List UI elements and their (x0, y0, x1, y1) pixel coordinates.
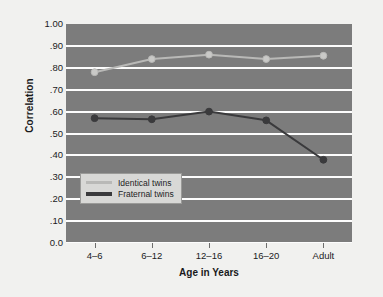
legend-label: Identical twins (118, 178, 171, 188)
x-axis-title: Age in Years (66, 267, 352, 278)
plot-area: Identical twins Fraternal twins (66, 24, 352, 243)
y-axis-tick-label: .40 (33, 150, 63, 160)
y-axis-tick-label: .70 (33, 85, 63, 95)
y-axis-tick-label: 0.0 (33, 238, 63, 248)
x-axis-tick-label: 4–6 (65, 250, 125, 261)
data-point-marker (206, 108, 213, 115)
y-axis-tick-label: .30 (33, 172, 63, 182)
series-line (95, 112, 324, 160)
data-point-marker (320, 156, 327, 163)
legend-item: Identical twins (86, 177, 174, 188)
data-point-marker (91, 115, 98, 122)
x-axis-tick-mark (323, 243, 324, 248)
data-point-marker (320, 52, 327, 59)
x-axis-tick-mark (266, 243, 267, 248)
x-axis-tick-mark (152, 243, 153, 248)
x-axis-tick-label: 12–16 (179, 250, 239, 261)
x-axis-tick-mark (209, 243, 210, 248)
y-axis-tick-label: .10 (33, 216, 63, 226)
y-axis-tick-label: 1.00 (33, 19, 63, 29)
data-point-marker (148, 116, 155, 123)
legend-swatch-identical-twins (86, 181, 112, 184)
data-point-marker (263, 56, 270, 63)
data-point-marker (148, 56, 155, 63)
x-axis-tick-label: 6–12 (122, 250, 182, 261)
y-axis-tick-label: .90 (33, 41, 63, 51)
y-axis-tick-label: .50 (33, 129, 63, 139)
data-point-marker (91, 69, 98, 76)
legend-swatch-fraternal-twins (86, 192, 112, 196)
series-layer (66, 24, 352, 243)
y-axis-tick-label: .60 (33, 107, 63, 117)
x-axis-tick-labels: 4–66–1212–1616–20Adult (66, 243, 352, 269)
y-axis-tick-label: .20 (33, 194, 63, 204)
chart-legend: Identical twins Fraternal twins (80, 173, 182, 204)
y-axis-tick-labels: 1.00.90.80.70.60.50.40.30.20.100.0 (30, 0, 63, 297)
x-axis-tick-label: Adult (293, 250, 353, 261)
y-axis-tick-label: .80 (33, 63, 63, 73)
data-point-marker (206, 51, 213, 58)
x-axis-tick-label: 16–20 (236, 250, 296, 261)
x-axis-tick-mark (95, 243, 96, 248)
data-point-marker (263, 117, 270, 124)
legend-item: Fraternal twins (86, 188, 174, 199)
chart-figure: 1.00.90.80.70.60.50.40.30.20.100.0 Corre… (0, 0, 383, 297)
legend-label: Fraternal twins (118, 189, 174, 199)
y-axis-title: Correlation (24, 51, 35, 161)
